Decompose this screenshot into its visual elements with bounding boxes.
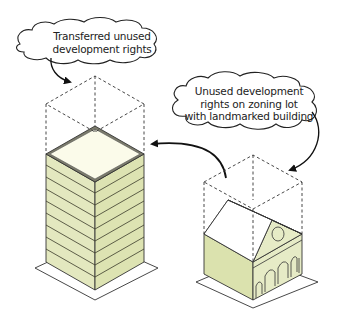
diagram-stage: Transferred unused development rights Un… — [0, 0, 341, 312]
oculus-window — [272, 227, 284, 241]
tower-building — [46, 126, 144, 290]
callout-unused-line-3: with landmarked building — [174, 110, 324, 123]
callout-transferred-rights: Transferred unused development rights — [46, 30, 158, 55]
callout-unused-line-2: rights on zoning lot — [174, 98, 324, 111]
callout-transferred-line-1: Transferred unused — [46, 30, 158, 43]
callout-unused-line-1: Unused development — [174, 85, 324, 98]
arrow-landmark-to-tower — [152, 143, 226, 178]
callout-unused-rights: Unused development rights on zoning lot … — [174, 85, 324, 123]
callout-transferred-line-2: development rights — [46, 43, 158, 56]
